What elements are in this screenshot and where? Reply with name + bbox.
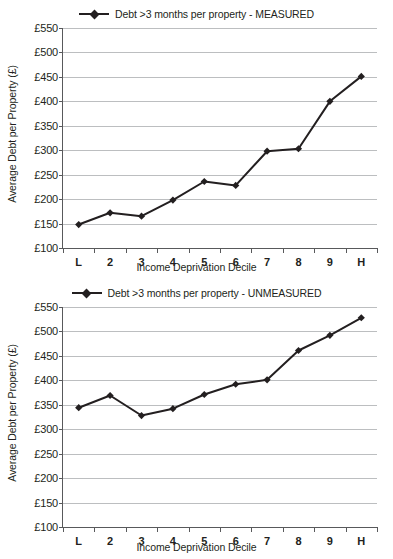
y-axis-title-text: Average Debt per Property (£) [6,344,18,482]
y-axis-tick-label: £550 [34,22,58,34]
x-axis-tick [377,527,378,532]
y-axis-tick-label: £350 [34,120,58,132]
y-axis-tick-label: £300 [34,423,58,435]
legend-marker-icon [72,287,102,299]
x-axis-tick [377,248,378,253]
y-axis-tick-label: £300 [34,144,58,156]
plot-canvas: £100£150£200£250£300£350£400£450£500£550… [62,28,377,248]
x-axis-tick [189,248,190,253]
y-axis-tick-label: £350 [34,399,58,411]
plot-area-unmeasured: £100£150£200£250£300£350£400£450£500£550… [62,307,377,527]
chart-measured: Debt >3 months per property - MEASURED A… [0,0,393,279]
x-axis-tick [189,527,190,532]
y-axis-tick-label: £450 [34,350,58,362]
x-axis-tick [126,248,127,253]
x-axis-tick [94,527,95,532]
y-axis-tick-label: £250 [34,448,58,460]
x-axis-title: Income Deprivation Decile [0,541,393,553]
y-axis-tick-label: £550 [34,301,58,313]
series-line [79,76,362,224]
data-point-marker [75,221,82,228]
legend-label: Debt >3 months per property - UNMEASURED [108,287,322,299]
x-axis-tick [314,248,315,253]
x-axis-tick [157,248,158,253]
x-axis-tick [346,527,347,532]
y-axis-title: Average Debt per Property (£) [4,24,20,244]
y-axis-tick-label: £250 [34,169,58,181]
data-point-marker [75,404,82,411]
x-axis-tick [157,527,158,532]
x-axis-tick [283,527,284,532]
data-series [63,28,377,248]
x-axis-tick [283,248,284,253]
chart-unmeasured: Debt >3 months per property - UNMEASURED… [0,279,393,559]
data-point-marker [138,213,145,220]
y-axis-title-text: Average Debt per Property (£) [6,65,18,203]
y-axis-tick-label: £150 [34,218,58,230]
y-axis-tick-label: £500 [34,46,58,58]
x-axis-tick [220,527,221,532]
y-axis-tick-label: £100 [34,521,58,533]
legend-marker-icon [79,8,109,20]
x-axis-tick [251,527,252,532]
data-point-marker [232,381,239,388]
data-point-marker [107,209,114,216]
x-axis-tick [94,248,95,253]
data-point-marker [169,405,176,412]
x-axis-tick [314,527,315,532]
plot-canvas: £100£150£200£250£300£350£400£450£500£550… [62,307,377,527]
legend-label: Debt >3 months per property - MEASURED [115,8,314,20]
y-axis-tick-label: £450 [34,71,58,83]
y-axis-tick-label: £400 [34,374,58,386]
y-axis-tick-label: £400 [34,95,58,107]
y-axis-tick-label: £200 [34,472,58,484]
x-axis-tick [63,248,64,253]
series-line [79,318,362,416]
plot-area-measured: £100£150£200£250£300£350£400£450£500£550… [62,28,377,248]
y-axis-tick-label: £150 [34,497,58,509]
data-point-marker [201,391,208,398]
data-series [63,307,377,527]
y-axis-title: Average Debt per Property (£) [4,303,20,523]
x-axis-tick [346,248,347,253]
x-axis-tick [251,248,252,253]
chart-legend-unmeasured: Debt >3 months per property - UNMEASURED [0,285,393,301]
x-axis-tick [220,248,221,253]
chart-legend-measured: Debt >3 months per property - MEASURED [0,6,393,22]
x-axis-title: Income Deprivation Decile [0,261,393,273]
x-axis-tick [63,527,64,532]
y-axis-tick-label: £500 [34,325,58,337]
y-axis-tick-label: £100 [34,242,58,254]
y-axis-tick-label: £200 [34,193,58,205]
x-axis-tick [126,527,127,532]
